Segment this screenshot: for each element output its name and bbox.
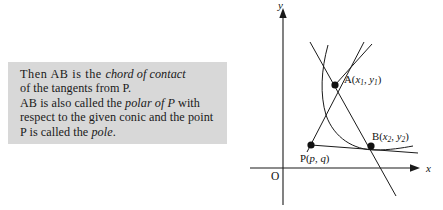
line4-part-roman: respect to the given conic and the point (20, 110, 213, 124)
point-A-close: ) (378, 73, 382, 86)
figure-page: Then AB is the chord of contact of the t… (0, 0, 443, 210)
origin-label: O (271, 170, 279, 182)
x-axis-arrowhead (410, 164, 420, 171)
point-P-label-main: P( (300, 152, 310, 165)
line5-part-roman-b: . (113, 125, 116, 139)
point-B-label: B(x2, y2) (372, 130, 409, 144)
explanation-line-5: P is called the pole. (20, 125, 223, 139)
x-axis-label: x (425, 162, 431, 174)
line5-part-italic: pole (91, 125, 112, 139)
explanation-lines: Then AB is the chord of contact of the t… (20, 67, 223, 139)
line3-part-italic: polar of P (125, 96, 175, 110)
point-B-close: ) (405, 130, 409, 143)
line3-part-roman-b: with (175, 96, 200, 110)
point-A-label-main: A( (344, 73, 356, 86)
explanation-line-1: Then AB is the chord of contact (20, 67, 223, 81)
point-B-label-main: B( (372, 130, 383, 143)
explanation-line-4: respect to the given conic and the point (20, 110, 223, 124)
explanation-text-panel: Then AB is the chord of contact of the t… (8, 62, 227, 144)
point-A-label: A(x1, y1) (344, 73, 382, 87)
line5-part-roman-a: P is called the (20, 125, 91, 139)
line3-part-roman-a: AB is also called the (20, 96, 125, 110)
conic-polar-diagram: y x O A(x1, y1) B(x2, y2) (250, 0, 443, 210)
point-B-marker (367, 142, 374, 149)
diagram-svg: y x O A(x1, y1) B(x2, y2) (250, 0, 443, 210)
line1-part-italic: chord of contact (106, 67, 186, 81)
y-axis-label: y (277, 0, 283, 11)
tangent-line-at-B (307, 42, 364, 152)
point-A-marker (331, 81, 338, 88)
point-P-label: P(p, q) (300, 152, 330, 165)
explanation-line-2: of the tangents from P. (20, 81, 223, 95)
line2-part-roman: of the tangents from P. (20, 81, 131, 95)
explanation-line-3: AB is also called the polar of P with (20, 96, 223, 110)
point-P-close: ) (326, 152, 330, 165)
point-P-marker (307, 141, 314, 148)
line1-part-roman: Then AB is the (20, 67, 106, 81)
